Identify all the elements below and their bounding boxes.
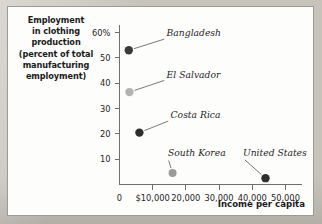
- y-axis-ticks: 102030405060%: [92, 28, 119, 165]
- data-point-label: Bangladesh: [166, 27, 221, 38]
- y-tick-label: 20: [100, 129, 111, 139]
- scatter-plot: 102030405060% 0$10,00020,00030,00040,000…: [8, 7, 315, 217]
- x-tick-label: 20,000: [171, 193, 200, 203]
- data-point-label: El Salvador: [166, 69, 221, 80]
- data-point-label: Costa Rica: [171, 109, 221, 120]
- data-point-labels: BangladeshEl SalvadorCosta RicaSouth Kor…: [166, 27, 307, 158]
- x-tick-label: 0: [117, 193, 122, 203]
- plot-area: Employment in clothing production (perce…: [8, 7, 313, 215]
- y-tick-label: 30: [100, 104, 111, 114]
- data-point: [135, 128, 143, 136]
- y-tick-label: 50: [100, 53, 111, 63]
- data-point-label: South Korea: [168, 147, 226, 158]
- x-axis-caption: Income per capita: [218, 199, 305, 209]
- data-point: [125, 88, 133, 96]
- x-tick-label: $10,000: [136, 193, 170, 203]
- data-point: [169, 169, 177, 177]
- figure-root: Employment in clothing production (perce…: [0, 0, 322, 224]
- y-tick-label: 40: [100, 78, 111, 88]
- y-tick-label: 10: [100, 154, 111, 164]
- chart-panel: Employment in clothing production (perce…: [7, 6, 314, 216]
- y-tick-label: 60%: [92, 28, 111, 38]
- data-point: [261, 174, 269, 182]
- data-point: [125, 46, 133, 54]
- data-point-label: United States: [243, 147, 307, 158]
